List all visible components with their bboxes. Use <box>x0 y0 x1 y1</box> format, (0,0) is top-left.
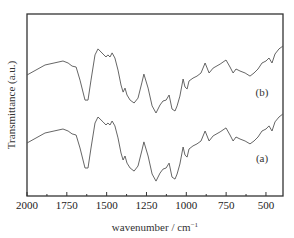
x-tick-label: 2000 <box>16 199 39 211</box>
x-tick-label: 1500 <box>96 199 119 211</box>
x-tick-label: 1000 <box>175 199 198 211</box>
x-tick-label: 500 <box>258 199 275 211</box>
series-label-b: (b) <box>256 86 269 99</box>
x-axis-tick-labels: 20001750150012501000750500 <box>16 199 275 211</box>
spectrum-line-a <box>27 114 283 181</box>
x-axis-label-superscript: −1 <box>191 221 199 229</box>
x-axis-label-text: wavenumber / cm <box>112 221 191 233</box>
series-labels: (b)(a) <box>256 86 269 165</box>
spectra <box>27 46 283 181</box>
plot-frame <box>27 14 283 196</box>
x-axis-label: wavenumber / cm−1 <box>112 221 199 233</box>
y-axis-label: Transmittance (a.u.) <box>5 60 18 149</box>
ftir-chart: 20001750150012501000750500 (b)(a) Transm… <box>0 0 294 238</box>
spectrum-line-b <box>27 46 283 113</box>
x-tick-label: 1250 <box>135 199 158 211</box>
series-label-a: (a) <box>256 152 269 165</box>
x-tick-label: 1750 <box>56 199 79 211</box>
x-tick-label: 750 <box>218 199 235 211</box>
